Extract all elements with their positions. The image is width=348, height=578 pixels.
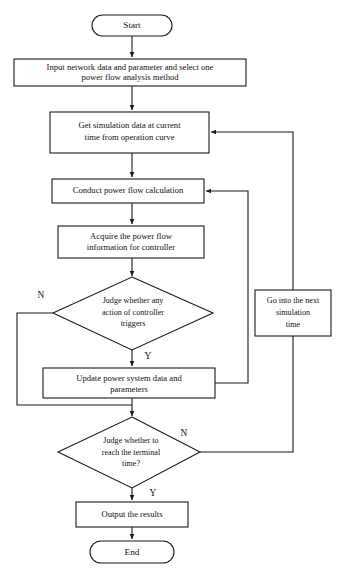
judge-terminal-time-label-line1: Judge whether to [103,436,158,445]
edge-update-to-conduct-loop [206,191,248,383]
branch-label-terminal-yes: Y [150,488,157,498]
go-next-simulation-time-label-line2: simulation [276,308,310,317]
branch-label-controller-yes: Y [145,351,152,361]
end-label: End [125,547,140,557]
input-data-label-line1: Input network data and parameter and sel… [47,62,214,72]
node-get-simulation-data[interactable]: Get simulation data at current time from… [50,112,209,153]
node-update-system-data[interactable]: Update power system data and parameters [43,368,215,398]
node-start[interactable]: Start [92,15,172,36]
go-next-simulation-time-label-line3: time [286,320,301,329]
judge-controller-action-label-line3: triggers [121,319,146,328]
judge-controller-action-label-line2: action of controller [102,308,164,317]
node-end[interactable]: End [90,541,174,563]
node-output-results[interactable]: Output the results [76,502,188,527]
node-acquire-power-flow-info[interactable]: Acquire the power flow information for c… [58,226,204,258]
node-judge-controller-action[interactable]: Judge whether any action of controller t… [53,277,213,350]
acquire-power-flow-info-label-line2: information for controller [87,242,175,252]
judge-terminal-time-label-line3: time? [122,459,140,468]
branch-label-terminal-no: N [181,428,188,438]
edge-gonext-to-getsim-loop [211,132,293,290]
acquire-power-flow-info-label-line1: Acquire the power flow [90,231,173,241]
input-data-label-line2: power flow analysis method [81,72,179,82]
update-system-data-label-line1: Update power system data and [76,373,182,383]
branch-label-controller-no: N [38,290,45,300]
flowchart-canvas: Start Input network data and parameter a… [0,0,348,578]
node-conduct-power-flow[interactable]: Conduct power flow calculation [52,179,204,203]
output-results-label: Output the results [101,509,163,519]
get-simulation-data-label-line1: Get simulation data at current [78,120,181,130]
conduct-power-flow-label: Conduct power flow calculation [73,185,184,195]
node-go-next-simulation-time[interactable]: Go into the next simulation time [255,290,331,336]
start-label: Start [123,20,141,30]
judge-terminal-time-label-line2: reach the terminal [102,448,161,457]
flowchart-page: Start Input network data and parameter a… [0,0,348,578]
update-system-data-label-line2: parameters [110,384,148,394]
go-next-simulation-time-label-line1: Go into the next [267,296,320,305]
judge-controller-action-label-line1: Judge whether any [103,296,165,305]
node-input-data[interactable]: Input network data and parameter and sel… [14,59,246,86]
get-simulation-data-label-line2: time from operation curve [85,132,175,142]
node-judge-terminal-time[interactable]: Judge whether to reach the terminal time… [58,417,200,488]
